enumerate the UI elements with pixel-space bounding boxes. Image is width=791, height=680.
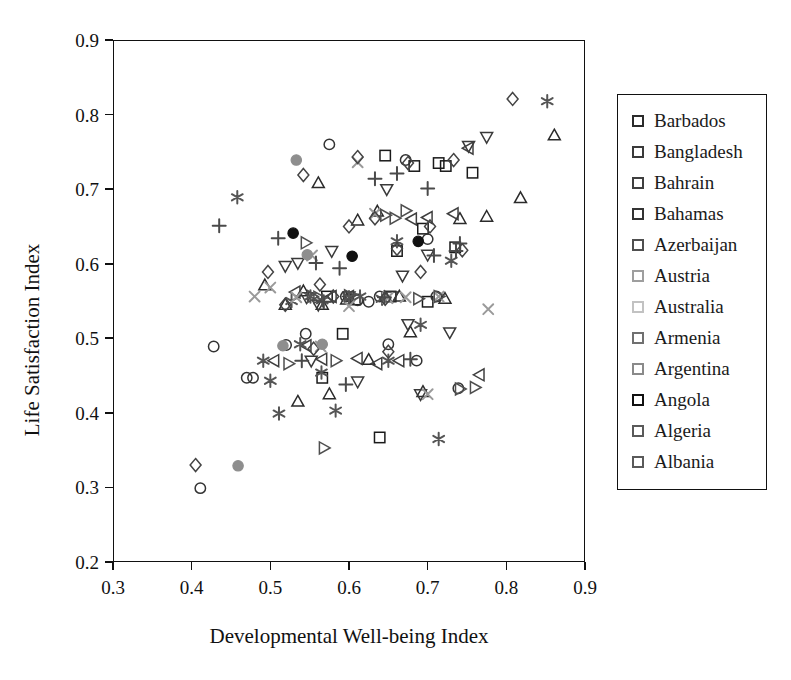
scatter-point [317,339,327,349]
scatter-point [433,433,444,445]
scatter-point [390,212,401,224]
scatter-point [292,259,304,270]
scatter-point [380,150,390,160]
scatter-point [421,182,434,195]
x-tick-label: 0.8 [476,578,536,597]
scatter-point [548,129,560,140]
scatter-point [338,329,348,339]
legend-item[interactable]: Armenia [618,322,766,353]
scatter-point [272,232,285,245]
scatter-point [374,432,384,442]
scatter-point [265,283,275,293]
y-tick-label: 0.7 [55,180,99,199]
scatter-point [284,358,295,370]
x-tick-mark [506,562,508,570]
x-tick-mark [112,562,114,570]
y-tick-mark [105,263,113,265]
scatter-point [481,133,493,144]
scatter-point [312,177,324,188]
legend-square-icon [632,115,644,127]
scatter-point [323,388,335,399]
scatter-point [279,262,291,273]
legend-item[interactable]: Azerbaijan [618,229,766,260]
scatter-point [302,250,312,260]
scatter-point [333,262,346,275]
scatter-point [352,377,364,388]
scatter-point [268,355,279,367]
scatter-point [415,265,426,278]
legend-item-label: Armenia [654,328,720,347]
legend-item-label: Australia [654,297,724,316]
legend-item-label: Bahamas [654,204,724,223]
legend-item-label: Argentina [654,359,730,378]
x-tick-label: 0.3 [83,578,143,597]
scatter-point [248,373,258,383]
scatter-point [433,158,443,168]
legend-item[interactable]: Albania [618,446,766,477]
y-tick-label: 0.3 [55,478,99,497]
scatter-point [265,375,276,387]
scatter-point [195,483,205,493]
legend-item[interactable]: Bahamas [618,198,766,229]
legend-item-label: Austria [654,266,710,285]
scatter-point [403,157,414,170]
y-tick-mark [105,39,113,41]
scatter-points-layer [113,40,585,562]
legend-item[interactable]: Austria [618,260,766,291]
scatter-point [411,355,421,365]
x-tick-label: 0.7 [398,578,458,597]
legend-square-icon [632,332,644,344]
y-tick-label: 0.4 [55,403,99,422]
x-tick-label: 0.5 [240,578,300,597]
legend-item-label: Bangladesh [654,142,743,161]
scatter-point [363,297,373,307]
scatter-point [381,185,393,196]
scatter-point [233,461,243,471]
scatter-point [448,154,459,167]
legend-square-icon [632,394,644,406]
legend-item-label: Algeria [654,421,711,440]
scatter-point [404,353,417,366]
scatter-point [515,192,527,203]
y-tick-mark [105,114,113,116]
scatter-point [467,168,477,178]
scatter-series [190,92,518,471]
scatter-point [444,328,456,339]
y-tick-mark [105,487,113,489]
legend-item[interactable]: Bahrain [618,167,766,198]
legend-item[interactable]: Argentina [618,353,766,384]
y-tick-label: 0.9 [55,31,99,50]
scatter-point [274,407,285,419]
scatter-point [542,95,553,107]
scatter-point [393,355,404,367]
y-tick-label: 0.6 [55,254,99,273]
scatter-point [483,304,493,314]
scatter-point [401,205,412,217]
y-tick-label: 0.8 [55,105,99,124]
legend-item[interactable]: Barbados [618,105,766,136]
legend-item[interactable]: Algeria [618,415,766,446]
scatter-point [507,92,518,105]
legend-item[interactable]: Bangladesh [618,136,766,167]
scatter-point [422,234,432,244]
scatter-point [331,355,342,367]
legend-item[interactable]: Australia [618,291,766,322]
y-tick-label: 0.2 [55,553,99,572]
scatter-series [233,155,328,471]
scatter-point [288,228,298,238]
legend-square-icon [632,425,644,437]
x-tick-label: 0.6 [319,578,379,597]
x-axis-title: Developmental Well-being Index [113,624,585,649]
scatter-point [339,378,352,391]
legend-item-label: Bahrain [654,173,714,192]
legend-item[interactable]: Angola [618,384,766,415]
legend-item-label: Azerbaijan [654,235,737,254]
scatter-point [301,237,312,249]
y-tick-mark [105,337,113,339]
legend-square-icon [632,270,644,282]
scatter-point [406,213,417,225]
legend-item-label: Albania [654,452,714,471]
x-tick-label: 0.4 [162,578,222,597]
y-tick-mark [105,188,113,190]
scatter-point [421,212,432,224]
